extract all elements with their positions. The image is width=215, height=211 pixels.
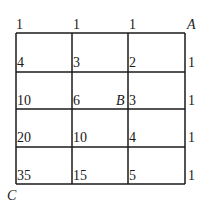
node-value: 1	[188, 94, 195, 108]
node-value: 10	[17, 94, 31, 108]
point-c-label: C	[7, 189, 16, 203]
point-a-label: A	[187, 18, 196, 32]
node-value: 5	[129, 169, 136, 183]
node-value: 1	[129, 18, 136, 32]
node-value: 4	[129, 131, 136, 145]
node-value: 1	[16, 18, 23, 32]
node-value: 1	[73, 18, 80, 32]
node-value: 15	[73, 169, 87, 183]
node-value: 3	[73, 56, 80, 70]
node-value: 3	[129, 94, 136, 108]
node-value: 4	[17, 56, 24, 70]
node-value: 1	[188, 169, 195, 183]
point-b-label: B	[116, 94, 125, 108]
node-value: 20	[17, 131, 31, 145]
node-value: 1	[188, 131, 195, 145]
node-value: 1	[188, 56, 195, 70]
node-value: 6	[73, 94, 80, 108]
node-value: 10	[73, 131, 87, 145]
node-value: 35	[17, 169, 31, 183]
node-value: 2	[129, 56, 136, 70]
grid-lines	[0, 0, 215, 211]
